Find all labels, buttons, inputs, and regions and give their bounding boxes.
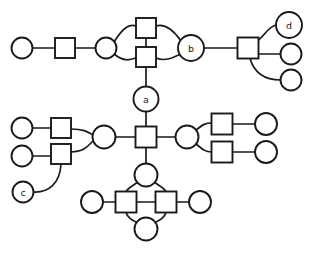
edge-s2-b <box>156 25 181 41</box>
node-label-b: b <box>188 43 194 54</box>
node-circle[interactable] <box>12 146 33 167</box>
node-square[interactable] <box>212 114 233 135</box>
node-square[interactable] <box>55 38 75 58</box>
edge-c11-s10 <box>154 182 166 192</box>
node-square-hub[interactable] <box>136 127 157 148</box>
node-square[interactable] <box>212 142 233 163</box>
node-circle[interactable] <box>12 118 33 139</box>
edge-c2-s2 <box>114 25 136 42</box>
node-label-c: c <box>20 187 25 198</box>
edge-s5-c7 <box>71 129 93 135</box>
edge-c2-s3 <box>114 54 136 60</box>
diagram-canvas: b d a c <box>0 0 314 254</box>
node-square[interactable] <box>51 144 71 164</box>
edge-c-s6 <box>33 164 61 192</box>
edge-c11-s9 <box>126 182 138 192</box>
node-circle[interactable] <box>135 218 158 241</box>
node-square[interactable] <box>51 118 71 138</box>
node-circle[interactable] <box>96 38 117 59</box>
edge-s3-b <box>156 54 181 59</box>
node-circle[interactable] <box>93 126 116 149</box>
node-circle[interactable] <box>281 70 302 91</box>
node-square[interactable] <box>116 192 137 213</box>
edge-s4-d <box>259 25 277 40</box>
node-circle[interactable] <box>135 164 158 187</box>
node-circle[interactable] <box>255 141 277 163</box>
node-square[interactable] <box>156 192 177 213</box>
node-square[interactable] <box>136 18 156 38</box>
node-circle[interactable] <box>12 38 33 59</box>
node-circle[interactable] <box>176 126 199 149</box>
node-label-a: a <box>143 94 149 105</box>
node-circle[interactable] <box>189 191 211 213</box>
node-circle[interactable] <box>81 191 103 213</box>
node-link-graph: b d a c <box>0 0 314 254</box>
node-square[interactable] <box>238 38 259 59</box>
edge-s4-c4 <box>250 59 281 81</box>
edge-c8-s8 <box>195 143 212 152</box>
node-circle[interactable] <box>281 44 302 65</box>
node-circle[interactable] <box>255 113 277 135</box>
node-label-d: d <box>286 20 292 31</box>
edge-c8-s7 <box>195 123 212 131</box>
edge-s6-c7 <box>71 141 93 152</box>
node-layer: b d a c <box>12 12 303 241</box>
node-square[interactable] <box>136 47 156 67</box>
